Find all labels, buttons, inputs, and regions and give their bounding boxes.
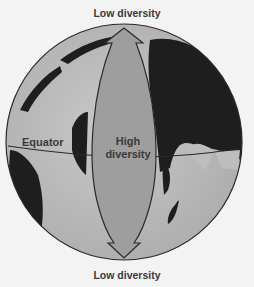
center-label-line1: High — [98, 135, 158, 148]
center-label-line2: diversity — [98, 148, 158, 161]
center-label: High diversity — [98, 135, 158, 161]
equator-label: Equator — [22, 136, 64, 148]
top-label: Low diversity — [0, 7, 254, 19]
bottom-label: Low diversity — [0, 269, 254, 281]
